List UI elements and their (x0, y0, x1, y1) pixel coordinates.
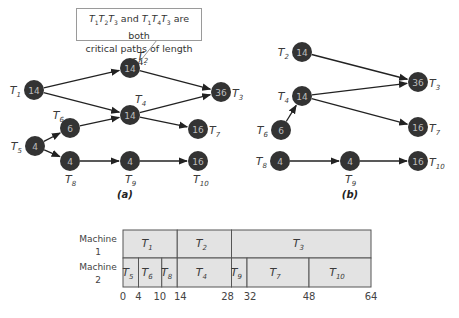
node-t5: 4T5 (11, 136, 45, 156)
node-label: T4 (278, 90, 289, 105)
node-value: 4 (277, 157, 283, 167)
node-t8: 4T8 (256, 151, 290, 171)
node-t9: 4T9 (120, 151, 140, 188)
node-t3: 36T3 (408, 72, 440, 92)
node-label: T1 (10, 84, 21, 99)
node-label: T7 (429, 122, 441, 137)
node-t6: 6T6 (53, 109, 80, 138)
node-t4: 14T4 (120, 93, 146, 125)
node-label: T4 (135, 93, 146, 108)
gantt-task-t7: T7 (247, 258, 309, 287)
node-label: T10 (193, 173, 209, 188)
gantt-task-t4: T4 (177, 258, 231, 287)
node-value: 16 (192, 157, 204, 167)
node-value: 16 (412, 123, 424, 133)
gantt-task-t9: T9 (231, 258, 247, 287)
node-value: 14 (124, 111, 136, 121)
axis-tick: 10 (153, 291, 166, 302)
node-label: T3 (232, 87, 243, 102)
node-value: 36 (412, 78, 424, 88)
node-t7: 16T7 (408, 117, 441, 137)
axis-tick: 0 (120, 291, 126, 302)
edge-T2-T3 (312, 55, 408, 80)
node-label: T9 (125, 173, 137, 188)
node-label: T8 (65, 173, 77, 188)
node-value: 14 (124, 64, 136, 74)
caption-a: (a) (117, 189, 133, 200)
node-t1: 14T1 (10, 80, 44, 100)
axis-tick: 48 (303, 291, 316, 302)
node-value: 4 (32, 142, 38, 152)
axis-tick: 14 (174, 291, 187, 302)
machine-2-label: Machine (79, 262, 117, 272)
node-t2: 14T2 (120, 50, 149, 78)
axis-tick: 32 (244, 291, 257, 302)
node-value: 6 (278, 126, 284, 136)
graph-a: 14T114T236T314T44T56T616T74T84T916T10 (10, 50, 243, 188)
node-t7: 16T7 (188, 119, 221, 139)
gantt-task-t1: T1 (123, 230, 177, 258)
axis-tick: 4 (135, 291, 141, 302)
edge-T4-T3 (312, 83, 407, 94)
node-value: 14 (296, 48, 308, 58)
edge-T5-T8 (44, 150, 60, 157)
gantt-task-t5: T5 (122, 258, 138, 287)
node-value: 14 (296, 92, 308, 102)
node-value: 4 (67, 157, 73, 167)
edge-T4-T3 (140, 95, 211, 113)
svg-text:1: 1 (95, 247, 101, 257)
node-label: T6 (53, 109, 65, 124)
edge-T1-T2 (44, 70, 120, 87)
node-t2: 14T2 (278, 42, 312, 62)
node-t4: 14T4 (278, 86, 312, 106)
node-label: T6 (257, 124, 269, 139)
node-value: 36 (215, 88, 227, 98)
node-t3: 36T3 (211, 82, 243, 102)
node-value: 16 (412, 157, 424, 167)
node-t6: 6T6 (257, 120, 291, 140)
node-value: 6 (67, 124, 73, 134)
diagram-canvas: 14T114T236T314T44T56T616T74T84T916T10 14… (0, 0, 459, 318)
node-label: T9 (345, 173, 357, 188)
edge-T4-T7 (312, 99, 408, 125)
node-label: T5 (11, 140, 23, 155)
graph-b: 14T236T314T46T616T74T84T916T10 (256, 42, 445, 188)
node-t10: 16T10 (408, 151, 445, 171)
edge-T4-T7 (140, 117, 187, 127)
axis-tick: 28 (221, 291, 234, 302)
node-label: T8 (256, 155, 268, 170)
node-t9: 4T9 (340, 151, 360, 188)
gantt-task-t2: T2 (177, 230, 231, 258)
machine-1-label: Machine (79, 234, 117, 244)
node-value: 16 (192, 125, 204, 135)
node-label: T10 (429, 156, 445, 171)
node-value: 14 (28, 86, 40, 96)
edge-T6-T4 (286, 105, 296, 121)
node-t10: 16T10 (188, 151, 209, 188)
node-label: T3 (429, 77, 440, 92)
caption-b: (b) (342, 189, 358, 200)
gantt-task-t6: T6 (139, 258, 162, 287)
node-label: T2 (278, 46, 290, 61)
node-t8: 4T8 (60, 151, 80, 188)
node-value: 4 (127, 157, 133, 167)
gantt-task-t8: T8 (161, 258, 177, 287)
svg-text:2: 2 (95, 275, 101, 285)
edge-T5-T6 (44, 133, 60, 141)
gantt-task-t3: T3 (232, 230, 372, 258)
gantt-task-t10: T10 (309, 258, 371, 287)
axis-tick: 64 (365, 291, 378, 302)
edge-T6-T4 (80, 117, 119, 126)
edge-T2-T3 (140, 71, 211, 90)
node-value: 4 (347, 157, 353, 167)
node-label: T7 (209, 124, 221, 139)
gantt-chart: Machine1T1T2T3Machine2T5T6T8T4T9T7T10041… (79, 230, 377, 302)
